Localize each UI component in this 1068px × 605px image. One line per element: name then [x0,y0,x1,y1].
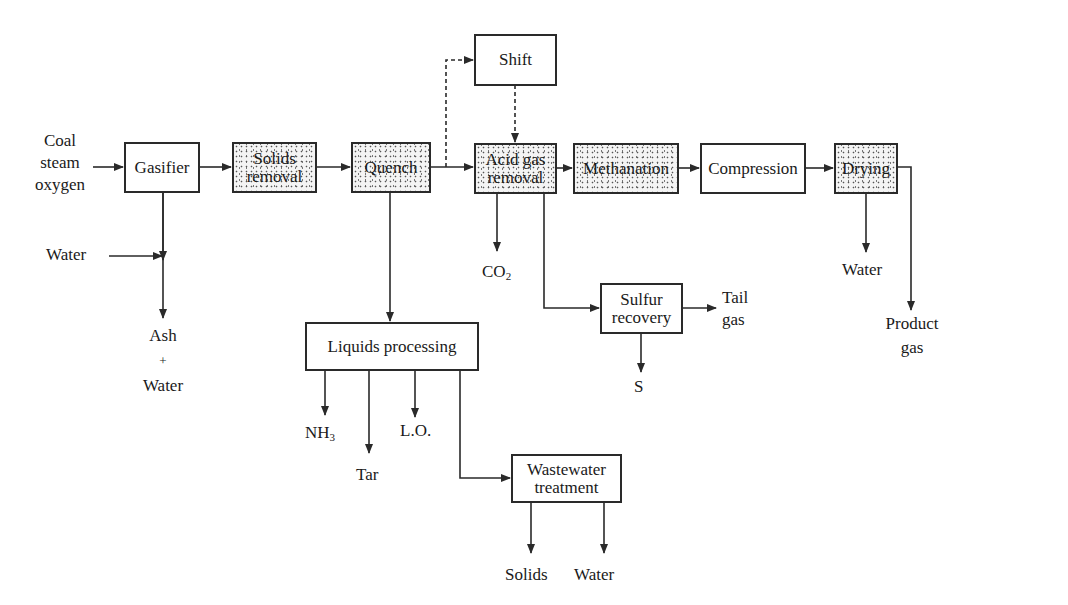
shift-label: Shift [499,51,532,69]
solids-label: Solids [505,565,548,585]
wastewater-treatment-label-line1: Wastewater [527,461,606,479]
gasifier-label: Gasifier [135,159,190,177]
compression-box: Compression [700,143,806,194]
feed-oxygen: oxygen [28,174,92,196]
solids-removal-label-line1: Solids [253,150,296,168]
nh3-label: NH3 [305,423,335,447]
methanation-label: Methanation [583,160,669,178]
sulfur-recovery-label-line2: recovery [612,309,671,327]
co2-base: CO [482,262,506,281]
shift-box: Shift [474,34,557,86]
liquids-processing-box: Liquids processing [305,322,479,371]
tail-gas-label: Tail gas [722,287,748,331]
feed-label: Coal steam oxygen [28,130,92,196]
wastewater-treatment-label-line2: treatment [534,479,598,497]
lo-label: L.O. [400,421,431,441]
feed-steam: steam [28,152,92,174]
product-text: Product [878,312,946,336]
coal-gasification-flow-diagram: Gasifier Solids removal Quench Shift Aci… [0,0,1068,605]
gas-text: gas [722,309,748,331]
water-text: Water [133,373,193,399]
sulfur-label: S [634,377,643,397]
nh3-subscript: 3 [330,431,336,443]
water-in-label: Water [46,245,86,265]
product-gas-label: Product gas [878,312,946,360]
co2-label: CO2 [482,262,511,286]
drying-box: Drying [834,143,898,194]
acid-gas-removal-label-line2: removal [488,169,544,187]
water-drying-label: Water [842,260,882,280]
sulfur-recovery-box: Sulfur recovery [600,283,683,334]
drying-label: Drying [842,160,890,178]
quench-box: Quench [351,142,431,193]
ash-text: Ash [133,323,193,349]
plus-text: + [133,349,193,373]
water-ww-label: Water [574,565,614,585]
wastewater-treatment-box: Wastewater treatment [511,454,622,503]
tail-text: Tail [722,287,748,309]
solids-removal-label-line2: removal [247,168,303,186]
co2-subscript: 2 [506,270,512,282]
product-gas-text: gas [878,336,946,360]
solids-removal-box: Solids removal [232,142,317,193]
acid-gas-removal-label-line1: Acid gas [486,151,546,169]
connector-lines [0,0,1068,605]
nh3-base: NH [305,423,330,442]
ash-water-label: Ash + Water [133,323,193,399]
quench-label: Quench [365,159,418,177]
methanation-box: Methanation [573,143,679,194]
feed-coal: Coal [28,130,92,152]
liquids-processing-label: Liquids processing [328,338,457,356]
gasifier-box: Gasifier [124,142,200,193]
compression-label: Compression [708,160,798,178]
sulfur-recovery-label-line1: Sulfur [620,291,663,309]
acid-gas-removal-box: Acid gas removal [474,143,557,194]
tar-label: Tar [356,465,378,485]
